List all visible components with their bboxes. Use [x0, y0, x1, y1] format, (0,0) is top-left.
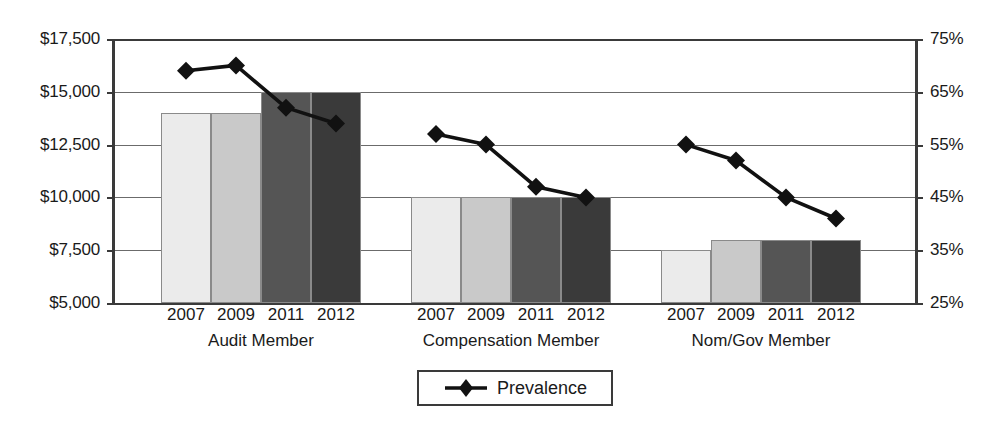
group-label: Audit Member: [121, 332, 401, 349]
left-axis-tick: [107, 303, 115, 305]
bar: [261, 92, 311, 303]
bar: [411, 197, 461, 303]
left-axis-tick-label: $12,500: [40, 136, 100, 153]
legend: Prevalence: [417, 370, 613, 406]
bar: [561, 197, 611, 303]
category-axis: 2007200920112012Audit Member200720092011…: [112, 306, 918, 366]
left-axis-tick-label: $15,000: [40, 83, 100, 100]
left-axis-tick-label: $5,000: [49, 294, 100, 311]
year-tick-label: 2011: [511, 306, 561, 323]
group-label: Nom/Gov Member: [621, 332, 901, 349]
bar: [811, 240, 861, 303]
left-axis-labels: $5,000$7,500$10,000$12,500$15,000$17,500: [0, 0, 100, 430]
year-tick-label: 2011: [261, 306, 311, 323]
right-axis-tick-label: 65%: [930, 83, 963, 100]
year-tick-label: 2009: [711, 306, 761, 323]
right-axis-tick-label: 35%: [930, 241, 963, 258]
right-axis-labels: 25%35%45%55%65%75%: [930, 0, 993, 430]
left-axis-tick-label: $17,500: [40, 30, 100, 47]
bar: [661, 250, 711, 303]
bars-layer: [112, 39, 918, 303]
legend-item-label: Prevalence: [497, 379, 587, 397]
bar: [211, 113, 261, 303]
year-tick-label: 2009: [461, 306, 511, 323]
right-axis-tick: [915, 303, 923, 305]
left-axis-tick-label: $7,500: [49, 241, 100, 258]
year-tick-label: 2007: [411, 306, 461, 323]
year-tick-label: 2011: [761, 306, 811, 323]
bar: [161, 113, 211, 303]
group-label: Compensation Member: [371, 332, 651, 349]
bar: [761, 240, 811, 303]
right-axis-tick-label: 45%: [930, 188, 963, 205]
bar: [511, 197, 561, 303]
year-tick-label: 2012: [561, 306, 611, 323]
prevalence-retainer-chart: $5,000$7,500$10,000$12,500$15,000$17,500…: [0, 0, 993, 430]
bar: [311, 92, 361, 303]
year-tick-label: 2009: [211, 306, 261, 323]
right-axis-tick-label: 55%: [930, 136, 963, 153]
year-tick-label: 2007: [661, 306, 711, 323]
prevalence-legend-marker-icon: [443, 378, 489, 398]
bar: [461, 197, 511, 303]
year-tick-label: 2012: [811, 306, 861, 323]
right-axis-tick-label: 25%: [930, 294, 963, 311]
bar: [711, 240, 761, 303]
left-axis-tick-label: $10,000: [40, 188, 100, 205]
right-axis-tick-label: 75%: [930, 30, 963, 47]
year-tick-label: 2012: [311, 306, 361, 323]
year-tick-label: 2007: [161, 306, 211, 323]
